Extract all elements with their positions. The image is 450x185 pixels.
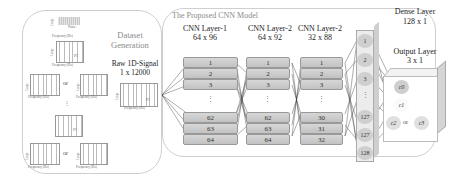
output-or-label: or [403,119,408,125]
layer3-node: 2 [300,68,343,79]
layer2-node: 2 [246,68,290,79]
layer1-node: 1 [183,57,238,68]
output-cube-front [383,76,438,142]
dense-node: 2 [357,53,373,67]
layer3-node: 32 [300,134,343,145]
dense-node: 127 [357,110,373,124]
layer1-node: 63 [183,123,238,134]
layer1-node: 2 [183,68,238,79]
layer3-node: 3 [300,79,343,90]
layer1-node: 64 [183,134,238,145]
output-node-label: c3 [419,120,425,126]
layer3-node: 30 [300,112,343,123]
dense-node: 1 [357,34,373,48]
layer3-node: 1 [300,57,343,68]
output-node-c2: c2 [386,116,401,130]
layer3-node: 31 [300,123,343,134]
layer1-node: 62 [183,112,238,123]
layer2-node: 64 [246,134,290,145]
dense-layer-side [374,22,379,158]
output-cube-side [437,60,446,134]
ellipsis: ⋮ [240,96,295,102]
dense-node: 3 [357,72,373,86]
layer2-node: 63 [246,123,290,134]
output-node-c3: c3 [414,116,429,130]
layer2-node: 1 [246,57,290,68]
dense-node: 128 [357,146,373,160]
output-node-c1: c1 [394,98,409,112]
output-node-label: c0 [399,84,405,90]
layer1-node: 3 [183,79,238,90]
layer2-node: 62 [246,112,290,123]
output-node-c0: c0 [394,80,409,94]
layer2-node: 3 [246,79,290,90]
ellipsis: ⋮ [183,96,238,102]
output-node-label: c2 [391,120,397,126]
output-node-label: c1 [399,102,405,108]
dense-node: 127 [357,128,373,142]
